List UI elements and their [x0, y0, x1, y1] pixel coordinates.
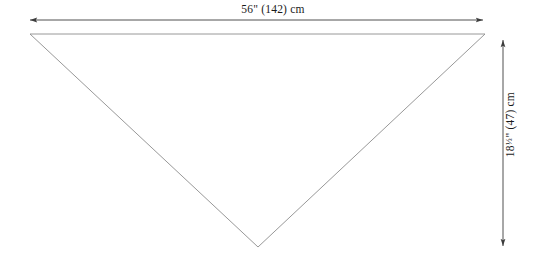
width-dimension-label: 56" (142) cm	[0, 3, 538, 15]
inverted-triangle-shape	[30, 34, 485, 247]
height-dimension-label-fraction: ½	[504, 137, 514, 145]
triangle-diagram-svg	[0, 0, 538, 270]
height-dimension-label-prefix: 18	[504, 145, 516, 157]
height-dimension-label-suffix: " (47) cm	[504, 92, 516, 137]
diagram-canvas: 56" (142) cm 18½" (47) cm	[0, 0, 538, 270]
width-dimension-label-text: 56" (142) cm	[233, 3, 304, 15]
height-dimension-label: 18½" (47) cm	[504, 92, 516, 157]
